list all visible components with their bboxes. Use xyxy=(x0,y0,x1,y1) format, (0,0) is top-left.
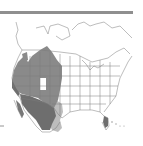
boundaries xyxy=(12,22,132,132)
range-map xyxy=(0,0,143,146)
range-absent-hole xyxy=(40,78,46,90)
caribbean-islands xyxy=(111,121,124,126)
